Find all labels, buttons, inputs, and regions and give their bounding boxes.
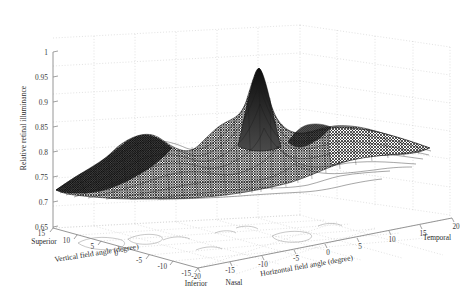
y-tick-label: -15 xyxy=(181,270,191,278)
y-tick-label: 10 xyxy=(63,237,71,245)
z-tick-label: 0.95 xyxy=(35,73,48,82)
figure-canvas: 1 0.95 0.9 0.85 0.8 0.75 0.7 0.65 15 10 … xyxy=(0,0,472,304)
z-axis-tick-labels: 1 0.95 0.9 0.85 0.8 0.75 0.7 0.65 xyxy=(35,48,48,232)
y-tick-label: -5 xyxy=(136,257,142,265)
superior-label: Superior xyxy=(31,237,57,246)
x-axis-title: Horizontal field angle (degree) xyxy=(260,253,354,278)
z-tick-label: 0.75 xyxy=(35,173,48,182)
z-tick-label: 0.85 xyxy=(35,123,48,132)
inferior-label: Inferior xyxy=(185,279,208,288)
x-tick-label: 20 xyxy=(452,223,460,231)
z-tick-label: 0.8 xyxy=(39,148,49,157)
nasal-label: Nasal xyxy=(226,278,243,287)
y-tick-label: -10 xyxy=(157,263,167,271)
x-axis-tick-labels: -20 -15 -10 -5 0 5 10 15 20 xyxy=(191,223,460,281)
x-tick-label: 10 xyxy=(388,236,396,244)
x-tick-label: 5 xyxy=(358,243,362,251)
surface-plot-svg: 1 0.95 0.9 0.85 0.8 0.75 0.7 0.65 15 10 … xyxy=(0,0,472,304)
z-tick-label: 0.9 xyxy=(39,98,49,107)
surface-mesh xyxy=(56,68,431,199)
x-tick-label: 0 xyxy=(326,249,330,257)
temporal-label: Temporal xyxy=(423,233,451,242)
z-tick-label: 1 xyxy=(44,48,48,57)
x-tick-label: -15 xyxy=(225,267,235,275)
z-axis-ticks xyxy=(53,51,58,227)
z-axis-title: Relative retinal illuminance xyxy=(19,85,28,170)
z-tick-label: 0.7 xyxy=(39,198,49,207)
y-axis-title: Vertical field angle (degree) xyxy=(54,242,140,264)
